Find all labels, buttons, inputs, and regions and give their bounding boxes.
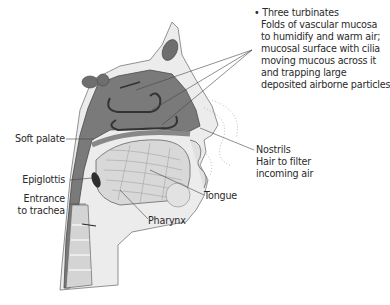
entrance-to-trachea-label: Entrance to trachea <box>18 193 65 217</box>
sphenoid-sinus-1 <box>82 76 98 88</box>
tongue-label: Tongue <box>204 190 237 202</box>
sphenoid-sinus-2 <box>97 74 109 86</box>
epiglottis-label: Epiglottis <box>22 174 65 186</box>
nostrils-label: Nostrils Hair to filter incoming air <box>256 144 313 180</box>
pharynx-label: Pharynx <box>148 215 186 227</box>
turbinates-label: • Three turbinates Folds of vascular muc… <box>254 7 390 91</box>
bullet: • <box>254 7 259 18</box>
soft-palate-label: Soft palate <box>15 133 65 145</box>
